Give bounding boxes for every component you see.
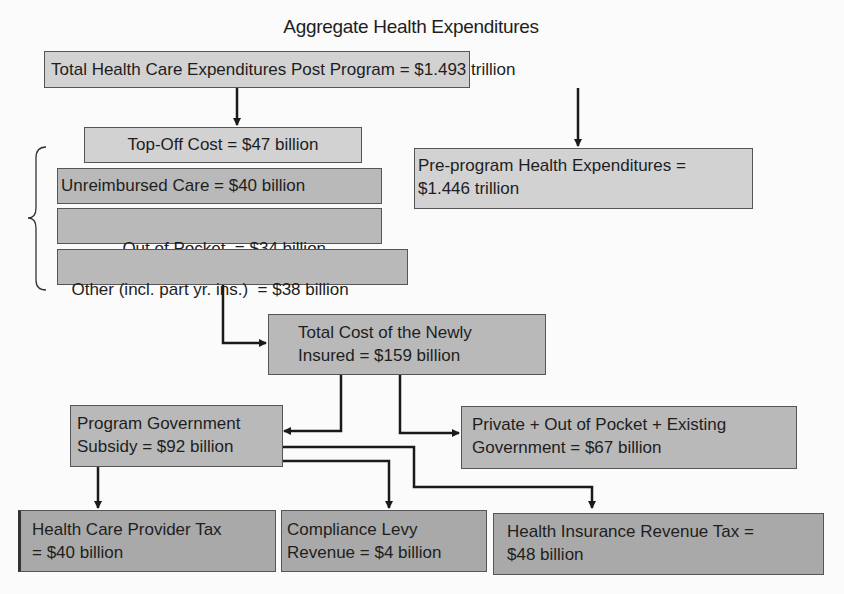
box-label: Other (incl. part yr. ins.) = $38 billio… (71, 280, 348, 299)
box-other: Other (incl. part yr. ins.) = $38 billio… (57, 249, 408, 285)
box-label-line2: = $40 billion (32, 541, 264, 564)
box-label-line2: $48 billion (507, 543, 810, 566)
box-unreimbursed-care: Unreimbursed Care = $40 billion (57, 168, 382, 204)
box-private-existing: Private + Out of Pocket + Existing Gover… (461, 406, 797, 469)
box-label-line1: Private + Out of Pocket + Existing (472, 413, 786, 436)
box-label-line2: Revenue = $4 billion (287, 541, 481, 564)
box-top-off-cost: Top-Off Cost = $47 billion (84, 127, 362, 163)
box-label-line1: Compliance Levy (287, 518, 481, 541)
arrow-newly-to-subsidy (284, 374, 341, 431)
box-pre-program: Pre-program Health Expenditures = $1.446… (414, 148, 753, 209)
box-compliance-levy: Compliance Levy Revenue = $4 billion (281, 510, 487, 572)
box-label-line1: Pre-program Health Expenditures = (418, 154, 749, 177)
box-insurance-tax: Health Insurance Revenue Tax = $48 billi… (493, 513, 824, 575)
box-label-line1: Program Government (77, 412, 276, 435)
box-newly-insured: Total Cost of the Newly Insured = $159 b… (268, 314, 546, 375)
box-label-line1: Total Cost of the Newly (298, 321, 545, 344)
box-label: Unreimbursed Care = $40 billion (61, 176, 305, 195)
arrow-subsidy-to-compliance (282, 461, 389, 508)
box-label: Total Health Care Expenditures Post Prog… (51, 60, 515, 79)
box-label: Top-Off Cost = $47 billion (127, 135, 318, 154)
box-total-post-program: Total Health Care Expenditures Post Prog… (44, 51, 470, 88)
box-label-line2: Subsidy = $92 billion (77, 435, 276, 458)
box-label-line2: Government = $67 billion (472, 436, 786, 459)
box-label-line2: Insured = $159 billion (298, 344, 545, 367)
arrow-newly-to-private (400, 374, 459, 433)
box-label-line2: $1.446 trillion (418, 177, 749, 200)
box-label-line1: Health Insurance Revenue Tax = (507, 520, 810, 543)
box-government-subsidy: Program Government Subsidy = $92 billion (70, 405, 283, 467)
box-out-of-pocket: Out of Pocket = $34 billion (57, 208, 382, 244)
box-label-line1: Health Care Provider Tax (32, 518, 264, 541)
box-provider-tax: Health Care Provider Tax = $40 billion (18, 510, 276, 572)
grouping-brace (28, 147, 46, 290)
